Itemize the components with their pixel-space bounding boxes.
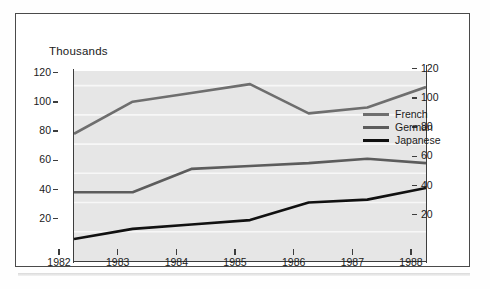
tick-y-right-120	[412, 68, 417, 69]
tick-x-1986	[293, 249, 294, 255]
tick-label-x-1984: 1984	[156, 256, 196, 268]
legend-row-french[interactable]: French	[363, 108, 453, 121]
tick-y-right-60	[412, 156, 417, 157]
legend-swatch-german	[363, 126, 389, 129]
tick-label-left-120: 120	[23, 66, 51, 78]
legend-label-german: German	[395, 122, 433, 133]
figure-frame: Thousands 204060801001202040608010012019…	[15, 13, 470, 267]
tick-y-left-20	[53, 218, 58, 219]
tick-x-1988	[410, 249, 411, 255]
tick-label-left-40: 40	[23, 183, 51, 195]
frame-shadow	[18, 273, 470, 276]
chart-legend: FrenchGermanJapanese	[363, 108, 453, 147]
tick-label-right-40: 40	[421, 179, 433, 191]
tick-y-left-80	[53, 130, 58, 131]
tick-y-left-60	[53, 160, 58, 161]
tick-y-right-100	[412, 97, 417, 98]
tick-x-1982	[58, 249, 59, 255]
plot-area	[74, 71, 426, 261]
tick-label-right-100: 100	[421, 91, 439, 103]
tick-label-x-1987: 1987	[332, 256, 372, 268]
tick-label-left-20: 20	[23, 212, 51, 224]
series-line-german	[74, 159, 426, 193]
legend-row-german[interactable]: German	[363, 121, 453, 134]
scanned-page: Thousands 204060801001202040608010012019…	[0, 0, 490, 289]
tick-x-1984	[176, 249, 177, 255]
legend-row-japanese[interactable]: Japanese	[363, 134, 453, 147]
legend-label-japanese: Japanese	[395, 135, 441, 146]
tick-label-left-100: 100	[23, 95, 51, 107]
tick-label-x-1982: 1982	[39, 256, 79, 268]
tick-x-1985	[234, 249, 235, 255]
tick-y-left-100	[53, 101, 58, 102]
tick-y-right-40	[412, 185, 417, 186]
tick-label-right-60: 60	[421, 149, 433, 161]
tick-y-left-120	[53, 72, 58, 73]
tick-label-right-120: 120	[421, 62, 439, 74]
legend-label-french: French	[395, 109, 428, 120]
tick-label-left-80: 80	[23, 124, 51, 136]
y-axis-left	[73, 69, 74, 263]
tick-label-x-1983: 1983	[98, 256, 138, 268]
legend-swatch-french	[363, 113, 389, 116]
tick-label-left-60: 60	[23, 153, 51, 165]
tick-y-left-40	[53, 189, 58, 190]
plot-canvas	[74, 71, 426, 261]
tick-x-1983	[117, 249, 118, 255]
tick-label-x-1986: 1986	[274, 256, 314, 268]
tick-label-x-1985: 1985	[215, 256, 255, 268]
tick-y-right-20	[412, 214, 417, 215]
tick-x-1987	[352, 249, 353, 255]
legend-swatch-japanese	[363, 139, 389, 142]
tick-label-right-20: 20	[421, 208, 433, 220]
tick-label-x-1988: 1988	[391, 256, 431, 268]
chart-title: Thousands	[49, 45, 108, 57]
